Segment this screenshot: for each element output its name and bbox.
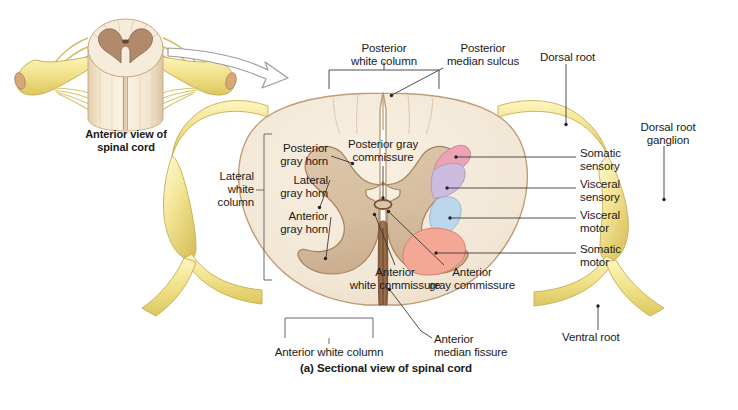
label-somatic-motor: Somatic motor	[580, 243, 654, 269]
label-lateral-white-column: Lateral white column	[178, 170, 254, 209]
inset-cut-face-white-matter	[88, 19, 163, 77]
label-visceral-sensory: Visceral sensory	[580, 178, 654, 204]
inset-central-canal	[122, 40, 128, 43]
label-posterior-median-sulcus: Posterior median sulcus	[428, 42, 538, 68]
label-posterior-gray-horn: Posterior gray horn	[228, 142, 328, 168]
posterior-median-sulcus-leader	[392, 68, 443, 95]
figure-caption: (a) Sectional view of spinal cord	[276, 362, 496, 375]
label-somatic-sensory: Somatic sensory	[580, 147, 654, 173]
label-anterior-gray-horn: Anterior gray horn	[240, 210, 328, 236]
anterior-white-column-bracket	[285, 318, 373, 338]
posterior-white-column-bracket	[329, 70, 439, 89]
label-ventral-root: Ventral root	[562, 331, 658, 344]
label-posterior-white-column: Posterior white column	[329, 42, 439, 68]
label-inset-title: Anterior view of spinal cord	[62, 128, 190, 154]
inset-anterior-view	[13, 19, 288, 131]
label-dorsal-root-ganglion: Dorsal root ganglion	[622, 121, 714, 147]
label-dorsal-root: Dorsal root	[540, 51, 630, 64]
label-anterior-gray-commissure: Anterior gray commissure	[400, 266, 544, 292]
label-visceral-motor: Visceral motor	[580, 209, 654, 235]
central-canal	[375, 200, 392, 209]
label-posterior-gray-commissure: Posterior gray commissure	[332, 138, 434, 164]
left-spinal-nerve-distal	[142, 258, 196, 316]
spinal-cord-figure: Posterior white column Posterior median …	[0, 0, 738, 410]
label-anterior-median-fissure: Anterior median fissure	[434, 333, 544, 359]
label-anterior-white-column: Anterior white column	[256, 346, 402, 359]
